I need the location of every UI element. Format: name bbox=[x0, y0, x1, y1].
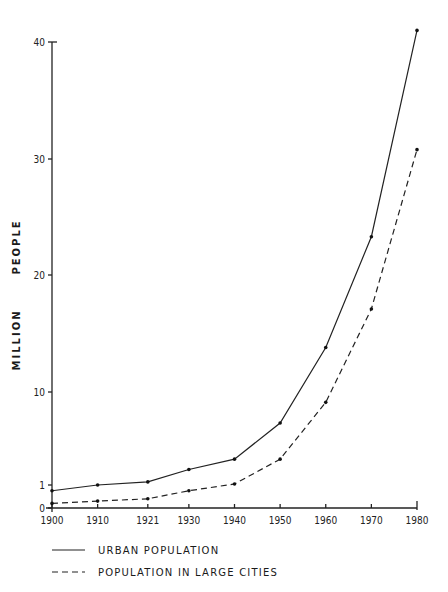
data-point-marker bbox=[278, 421, 282, 425]
line-chart: MILLION PEOPLE 0110203040 19001910192119… bbox=[0, 0, 448, 592]
y-tick-label: 40 bbox=[34, 37, 46, 48]
data-point-marker bbox=[233, 457, 237, 461]
y-axis-label-million: MILLION bbox=[11, 309, 22, 370]
series-urban-population bbox=[50, 29, 419, 493]
y-tick-label: 30 bbox=[34, 154, 46, 165]
y-tick-label: 0 bbox=[39, 503, 45, 514]
y-tick-label: 20 bbox=[34, 270, 46, 281]
x-tick-label: 1940 bbox=[223, 515, 246, 526]
data-point-marker bbox=[96, 499, 100, 503]
data-point-marker bbox=[370, 235, 374, 239]
x-tick-label: 1950 bbox=[269, 515, 292, 526]
x-axis-ticks: 190019101921193019401950196019701980 bbox=[41, 504, 429, 526]
x-tick-label: 1930 bbox=[177, 515, 200, 526]
data-point-marker bbox=[50, 489, 54, 493]
y-axis-ticks: 0110203040 bbox=[34, 37, 52, 514]
data-point-marker bbox=[187, 468, 191, 472]
y-axis-label-people: PEOPLE bbox=[11, 219, 22, 274]
data-point-marker bbox=[233, 482, 237, 486]
legend: URBAN POPULATIONPOPULATION IN LARGE CITI… bbox=[52, 545, 278, 578]
legend-label: URBAN POPULATION bbox=[98, 545, 219, 556]
x-tick-label: 1980 bbox=[406, 515, 429, 526]
data-point-marker bbox=[324, 401, 328, 405]
data-point-marker bbox=[370, 307, 374, 311]
data-point-marker bbox=[278, 457, 282, 461]
data-point-marker bbox=[96, 483, 100, 487]
legend-label: POPULATION IN LARGE CITIES bbox=[98, 567, 278, 578]
data-point-marker bbox=[146, 480, 150, 484]
data-point-marker bbox=[50, 502, 54, 506]
series-line bbox=[52, 30, 417, 490]
series-lines bbox=[50, 29, 419, 506]
y-tick-label: 1 bbox=[39, 480, 45, 491]
data-point-marker bbox=[324, 346, 328, 350]
legend-item: POPULATION IN LARGE CITIES bbox=[52, 567, 278, 578]
axes bbox=[46, 42, 417, 512]
series-line bbox=[52, 150, 417, 504]
x-tick-label: 1960 bbox=[314, 515, 337, 526]
data-point-marker bbox=[146, 497, 150, 501]
series-large-cities bbox=[50, 148, 419, 505]
data-point-marker bbox=[187, 489, 191, 493]
data-point-marker bbox=[415, 148, 419, 152]
data-point-marker bbox=[415, 29, 419, 33]
x-tick-label: 1921 bbox=[136, 515, 159, 526]
y-axis-label: MILLION PEOPLE bbox=[11, 219, 22, 370]
x-tick-label: 1910 bbox=[86, 515, 109, 526]
legend-item: URBAN POPULATION bbox=[52, 545, 219, 556]
x-tick-label: 1900 bbox=[41, 515, 64, 526]
y-tick-label: 10 bbox=[34, 387, 46, 398]
x-tick-label: 1970 bbox=[360, 515, 383, 526]
